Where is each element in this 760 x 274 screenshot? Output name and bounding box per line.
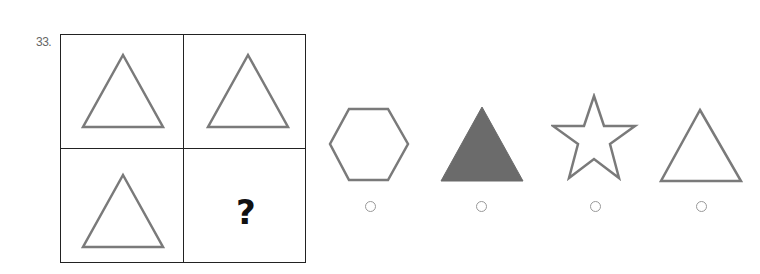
- triangle-outline-icon: [80, 52, 166, 132]
- missing-cell-question-mark: ?: [236, 192, 256, 232]
- triangle-filled-icon[interactable]: [438, 104, 526, 184]
- grid-divider-horizontal: [60, 148, 306, 149]
- option-3-radio[interactable]: [590, 201, 601, 212]
- option-4-radio[interactable]: [696, 201, 707, 212]
- triangle-outline-icon: [205, 52, 291, 132]
- hexagon-outline-icon[interactable]: [327, 106, 411, 184]
- triangle-outline-icon: [80, 172, 166, 252]
- star-outline-icon[interactable]: [551, 93, 639, 183]
- triangle-outline-icon[interactable]: [658, 107, 744, 185]
- option-2-radio[interactable]: [476, 201, 487, 212]
- question-number: 33.: [36, 35, 51, 49]
- option-1-radio[interactable]: [365, 201, 376, 212]
